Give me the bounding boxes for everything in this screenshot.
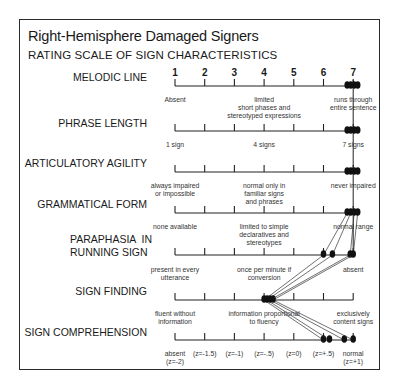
- rating-scale-plot: [0, 0, 396, 386]
